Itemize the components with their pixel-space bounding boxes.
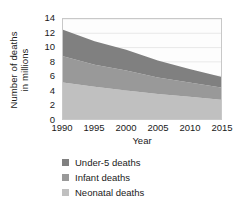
- legend-swatch-icon: [62, 159, 69, 166]
- area-series-group: [63, 30, 221, 119]
- y-axis-label: Number of deaths in millions: [2, 18, 36, 122]
- y-axis-label-line1: Number of deaths: [8, 31, 19, 108]
- legend-item: Infant deaths: [62, 170, 242, 184]
- stacked-area-plot: [63, 19, 221, 119]
- y-tick-label: 4: [50, 86, 55, 96]
- x-axis-label: Year: [62, 135, 222, 146]
- x-axis-ticks: 199019952000200520102015: [62, 122, 222, 136]
- y-tick-label: 10: [44, 42, 55, 52]
- x-tick-label: 2000: [115, 122, 136, 133]
- legend-swatch-icon: [62, 174, 69, 181]
- legend-item: Neonatal deaths: [62, 185, 242, 199]
- y-axis-ticks: 02468101214: [36, 12, 58, 126]
- legend-label: Infant deaths: [75, 172, 130, 183]
- legend-label: Neonatal deaths: [75, 187, 144, 198]
- chart-legend: Under-5 deathsInfant deathsNeonatal deat…: [62, 155, 242, 200]
- y-axis-label-line2: in millions: [19, 49, 30, 92]
- y-tick-label: 8: [50, 57, 55, 67]
- x-tick-label: 2005: [147, 122, 168, 133]
- legend-item: Under-5 deaths: [62, 155, 242, 169]
- x-tick-label: 2015: [211, 122, 232, 133]
- x-tick-label: 1995: [83, 122, 104, 133]
- x-tick-label: 1990: [51, 122, 72, 133]
- y-tick-label: 14: [44, 13, 55, 23]
- y-tick-label: 2: [50, 100, 55, 110]
- x-tick-label: 2010: [179, 122, 200, 133]
- y-tick-label: 6: [50, 71, 55, 81]
- legend-swatch-icon: [62, 189, 69, 196]
- legend-label: Under-5 deaths: [75, 157, 140, 168]
- chart-figure: Number of deaths in millions 02468101214…: [0, 0, 251, 217]
- y-tick-label: 12: [44, 28, 55, 38]
- plot-area: [62, 18, 222, 120]
